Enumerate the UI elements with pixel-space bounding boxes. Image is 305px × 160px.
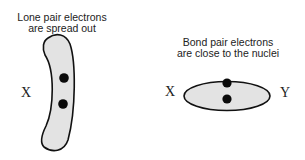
electron-dot [222, 94, 231, 103]
orbital-shapes [0, 0, 305, 160]
electron-dot [222, 78, 231, 87]
lone-pair-orbital [42, 35, 75, 151]
electron-dot [58, 99, 68, 109]
electron-dot [59, 73, 69, 83]
